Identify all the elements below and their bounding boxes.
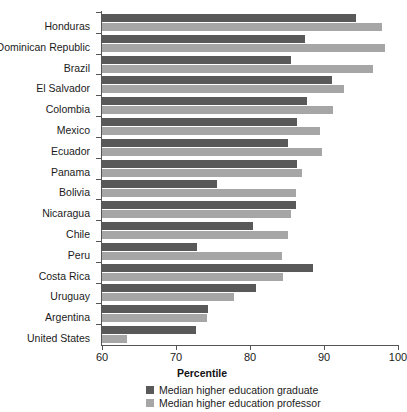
bar-graduate xyxy=(102,284,256,292)
bar-group: El Salvador xyxy=(102,76,398,93)
x-axis-tick xyxy=(398,345,399,350)
category-label: Uruguay xyxy=(50,291,90,302)
legend-item: Median higher education professor xyxy=(0,396,404,409)
bar-group: Colombia xyxy=(102,97,398,114)
category-label: Ecuador xyxy=(51,146,90,157)
bar-professor xyxy=(102,85,344,93)
bar-professor xyxy=(102,231,288,239)
y-axis-tick xyxy=(96,95,101,96)
y-axis-tick xyxy=(96,262,101,263)
legend-item: Median higher education graduate xyxy=(0,383,404,396)
y-axis-tick xyxy=(96,33,101,34)
bar-professor xyxy=(102,189,296,197)
x-axis-tick-label: 100 xyxy=(389,351,407,363)
bar-group: Costa Rica xyxy=(102,264,398,281)
bar-graduate xyxy=(102,180,217,188)
bar-graduate xyxy=(102,201,296,209)
bar-graduate xyxy=(102,35,305,43)
bar-group: Ecuador xyxy=(102,139,398,156)
y-axis-tick xyxy=(96,241,101,242)
bar-graduate xyxy=(102,118,297,126)
bar-group: Dominican Republic xyxy=(102,35,398,52)
bar-group: Chile xyxy=(102,222,398,239)
category-label: El Salvador xyxy=(36,83,90,94)
bar-professor xyxy=(102,23,382,31)
x-axis-tick-label: 60 xyxy=(96,351,108,363)
bar-graduate xyxy=(102,243,197,251)
x-axis-tick xyxy=(176,345,177,350)
x-axis-title: Percentile xyxy=(0,367,404,379)
bar-group: Mexico xyxy=(102,118,398,135)
y-axis-tick xyxy=(96,158,101,159)
y-axis-tick xyxy=(96,116,101,117)
category-label: Chile xyxy=(66,229,90,240)
bar-graduate xyxy=(102,222,253,230)
bar-professor xyxy=(102,314,207,322)
bar-group: Bolivia xyxy=(102,180,398,197)
y-axis-tick xyxy=(96,74,101,75)
category-label: Dominican Republic xyxy=(0,42,90,53)
x-axis-tick-label: 80 xyxy=(244,351,256,363)
bar-group: Panama xyxy=(102,160,398,177)
legend-item-label: Median higher education graduate xyxy=(159,384,318,396)
bar-graduate xyxy=(102,264,313,272)
category-label: Peru xyxy=(68,250,90,261)
bar-professor xyxy=(102,148,322,156)
category-label: Costa Rica xyxy=(39,271,90,282)
bar-professor xyxy=(102,252,282,260)
bar-professor xyxy=(102,210,291,218)
legend-item-label: Median higher education professor xyxy=(159,397,321,409)
bar-graduate xyxy=(102,14,356,22)
category-label: Brazil xyxy=(64,63,90,74)
category-label: Honduras xyxy=(44,21,90,32)
x-axis-tick xyxy=(250,345,251,350)
bar-group: Peru xyxy=(102,243,398,260)
bar-group: Brazil xyxy=(102,56,398,73)
category-label: Mexico xyxy=(57,125,90,136)
plot-area: HondurasDominican RepublicBrazilEl Salva… xyxy=(102,12,398,345)
x-axis-tick xyxy=(324,345,325,350)
y-axis-tick xyxy=(96,324,101,325)
bar-graduate xyxy=(102,56,291,64)
bar-professor xyxy=(102,106,333,114)
bar-group: Nicaragua xyxy=(102,201,398,218)
bar-professor xyxy=(102,127,320,135)
x-axis-tick xyxy=(102,345,103,350)
bar-professor xyxy=(102,335,127,343)
y-axis-tick xyxy=(96,137,101,138)
bar-group: Argentina xyxy=(102,305,398,322)
chart-legend: Median higher education graduateMedian h… xyxy=(0,383,404,409)
bar-professor xyxy=(102,293,234,301)
bar-professor xyxy=(102,44,385,52)
category-label: Nicaragua xyxy=(42,208,90,219)
category-label: Colombia xyxy=(46,104,90,115)
y-axis-tick xyxy=(96,199,101,200)
category-label: Panama xyxy=(51,167,90,178)
bar-graduate xyxy=(102,160,297,168)
bar-professor xyxy=(102,65,373,73)
legend-swatch-graduate xyxy=(146,386,154,394)
y-axis-tick xyxy=(96,54,101,55)
y-axis-tick xyxy=(96,220,101,221)
bar-graduate xyxy=(102,97,307,105)
bar-group: Uruguay xyxy=(102,284,398,301)
x-axis-tick-label: 70 xyxy=(170,351,182,363)
y-axis-tick xyxy=(96,303,101,304)
category-label: Argentina xyxy=(45,312,90,323)
category-label: Bolivia xyxy=(59,187,90,198)
legend-swatch-professor xyxy=(146,399,154,407)
bar-graduate xyxy=(102,139,288,147)
bar-graduate xyxy=(102,305,208,313)
y-axis-tick xyxy=(96,283,101,284)
bar-professor xyxy=(102,169,302,177)
bar-group: Honduras xyxy=(102,14,398,31)
x-axis-tick-label: 90 xyxy=(318,351,330,363)
bar-graduate xyxy=(102,76,332,84)
bar-graduate xyxy=(102,326,196,334)
bar-professor xyxy=(102,273,283,281)
category-label: United States xyxy=(27,333,90,344)
bar-group: United States xyxy=(102,326,398,343)
y-axis-tick xyxy=(96,179,101,180)
y-axis-tick xyxy=(96,12,101,13)
